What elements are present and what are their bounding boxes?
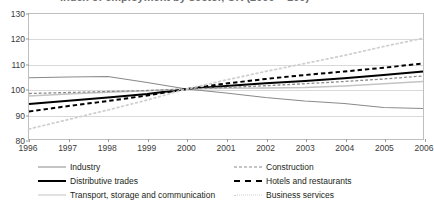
legend-swatch-icon <box>234 176 262 186</box>
x-axis-tickmark <box>425 139 426 142</box>
chart-caption-crop: Index of employment by sector, UK (2000 … <box>0 0 433 5</box>
x-axis-tick-label: 2004 <box>335 143 354 153</box>
legend-item-label: Industry <box>70 162 100 172</box>
legend-item-label: Construction <box>266 162 314 172</box>
legend-column-right: ConstructionHotels and restaurantsBusine… <box>234 160 434 202</box>
x-axis-tick-label: 1997 <box>58 143 77 153</box>
x-axis-tickmark <box>148 139 149 142</box>
x-axis-tick-label: 1999 <box>137 143 156 153</box>
x-axis-tickmark <box>306 139 307 142</box>
legend-swatch-icon <box>38 176 66 186</box>
y-axis-tick-label: 100 <box>11 85 25 95</box>
x-axis-tick-label: 2000 <box>177 143 196 153</box>
y-axis-tick-label: 130 <box>11 9 25 19</box>
x-axis-tickmark <box>346 139 347 142</box>
y-axis-tick-label: 90 <box>16 111 25 121</box>
legend-item[interactable]: Construction <box>234 160 434 174</box>
x-axis-labels: 1996199719981999200020012002200320042005… <box>28 143 424 157</box>
x-axis-tickmark <box>267 139 268 142</box>
chart-legend: IndustryDistributive tradesTransport, st… <box>38 160 428 202</box>
x-axis-tickmark <box>29 139 30 142</box>
x-axis-tickmark <box>108 139 109 142</box>
x-axis-tickmark <box>69 139 70 142</box>
x-axis-tickmark <box>227 139 228 142</box>
x-axis-tick-label: 2002 <box>256 143 275 153</box>
legend-item[interactable]: Hotels and restaurants <box>234 174 434 188</box>
chart-caption-text: Index of employment by sector, UK (2000 … <box>60 0 309 3</box>
x-axis-tick-label: 2003 <box>296 143 315 153</box>
legend-swatch-icon <box>38 190 66 200</box>
x-axis-tick-label: 2001 <box>217 143 236 153</box>
legend-item[interactable]: Transport, storage and communication <box>38 188 248 202</box>
legend-item-label: Business services <box>266 190 334 200</box>
x-axis-tickmark <box>385 139 386 142</box>
legend-swatch-icon <box>234 190 262 200</box>
legend-item[interactable]: Industry <box>38 160 248 174</box>
series-layer <box>29 14 423 139</box>
x-axis-tick-label: 2005 <box>375 143 394 153</box>
x-axis-tick-label: 1996 <box>19 143 38 153</box>
legend-column-left: IndustryDistributive tradesTransport, st… <box>38 160 248 202</box>
x-axis-tick-label: 2006 <box>415 143 434 153</box>
legend-item[interactable]: Distributive trades <box>38 174 248 188</box>
y-axis-tick-label: 120 <box>11 34 25 44</box>
x-axis-tick-label: 1998 <box>98 143 117 153</box>
plot-area: 8090100110120130 <box>28 13 424 140</box>
legend-swatch-icon <box>234 162 262 172</box>
legend-item-label: Transport, storage and communication <box>70 190 215 200</box>
x-axis-tickmark <box>187 139 188 142</box>
legend-swatch-icon <box>38 162 66 172</box>
legend-item[interactable]: Business services <box>234 188 434 202</box>
legend-item-label: Hotels and restaurants <box>266 176 352 186</box>
legend-item-label: Distributive trades <box>70 176 138 186</box>
y-axis-tick-label: 110 <box>11 60 25 70</box>
